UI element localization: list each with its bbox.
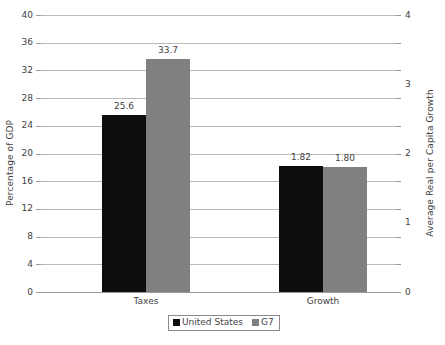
bar-value-label: 33.7	[146, 46, 190, 55]
y-axis-right-tick	[396, 264, 401, 265]
plot-area: 25.633.71.821.80	[41, 15, 396, 292]
gridline	[41, 70, 396, 71]
legend-label-g7: G7	[261, 318, 274, 327]
y-axis-left-tick-label: 32	[0, 66, 33, 75]
y-axis-left-tick-label: 24	[0, 121, 33, 130]
legend-label-united-states: United States	[182, 318, 243, 327]
y-axis-right-title: Average Real per Capita Growth	[425, 89, 435, 236]
bar-value-label: 25.6	[102, 102, 146, 111]
y-axis-left-tick-label: 16	[0, 177, 33, 186]
y-axis-left-tick-label: 36	[0, 38, 33, 47]
y-axis-right-tick-label: 3	[405, 80, 421, 89]
y-axis-right-tick	[396, 15, 401, 16]
y-axis-left-tick	[36, 292, 41, 293]
bar-taxes-united-states	[102, 115, 146, 292]
gridline	[41, 126, 396, 127]
bar-taxes-g7	[146, 59, 190, 292]
bar-chart: Percentage of GDP Average Real per Capit…	[0, 0, 445, 345]
y-axis-left-tick	[36, 15, 41, 16]
y-axis-left-tick	[36, 154, 41, 155]
legend-item-g7: G7	[252, 318, 274, 327]
y-axis-right-tick-label: 4	[405, 11, 421, 20]
gridline	[41, 98, 396, 99]
chart-legend: United States G7	[168, 315, 280, 331]
x-axis-tick-label-taxes: Taxes	[106, 296, 186, 306]
bar-value-label: 1.80	[323, 154, 367, 163]
y-axis-left-tick	[36, 237, 41, 238]
y-axis-left-labels: 0481216202428323640	[0, 15, 33, 292]
y-axis-left-tick	[36, 126, 41, 127]
y-axis-left-tick-label: 12	[0, 204, 33, 213]
bar-growth-united-states	[279, 166, 323, 292]
y-axis-right-tick	[396, 292, 401, 293]
y-axis-left-tick	[36, 209, 41, 210]
y-axis-right-tick-label: 1	[405, 218, 421, 227]
y-axis-left-tick	[36, 43, 41, 44]
y-axis-right-tick-label: 0	[405, 288, 421, 297]
y-axis-right-tick	[396, 181, 401, 182]
bar-value-label: 1.82	[279, 153, 323, 162]
y-axis-right-tick	[396, 98, 401, 99]
bar-growth-g7	[323, 167, 367, 292]
gridline	[41, 15, 396, 16]
y-axis-right-tick	[396, 43, 401, 44]
y-axis-left-tick	[36, 98, 41, 99]
y-axis-left-tick	[36, 70, 41, 71]
legend-swatch-icon-united-states	[173, 319, 180, 326]
gridline	[41, 43, 396, 44]
axis-baseline	[41, 292, 396, 293]
y-axis-left-tick	[36, 181, 41, 182]
y-axis-left-tick-label: 40	[0, 11, 33, 20]
y-axis-left-tick-label: 4	[0, 260, 33, 269]
y-axis-left-tick-label: 0	[0, 288, 33, 297]
y-axis-right-tick	[396, 209, 401, 210]
y-axis-left-tick	[36, 264, 41, 265]
y-axis-right-tick	[396, 154, 401, 155]
y-axis-right-tick	[396, 126, 401, 127]
y-axis-left-tick-label: 28	[0, 94, 33, 103]
x-axis-tick-label-growth: Growth	[283, 296, 363, 306]
y-axis-right-tick-label: 2	[405, 149, 421, 158]
y-axis-right-tick	[396, 70, 401, 71]
legend-swatch-icon-g7	[252, 319, 259, 326]
y-axis-left-tick-label: 20	[0, 149, 33, 158]
y-axis-left-tick-label: 8	[0, 232, 33, 241]
legend-item-united-states: United States	[173, 318, 243, 327]
y-axis-right-labels: 01234	[405, 15, 421, 292]
y-axis-right-tick	[396, 237, 401, 238]
